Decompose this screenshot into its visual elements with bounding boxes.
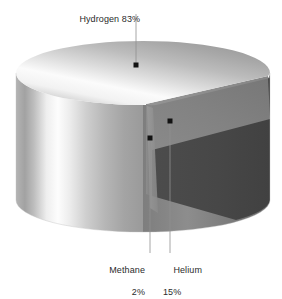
label-hydrogen: Hydrogen 83% bbox=[69, 3, 140, 36]
marker-methane bbox=[148, 136, 153, 141]
label-methane-name: Methane bbox=[109, 265, 145, 275]
label-helium-value: 15% bbox=[163, 287, 223, 298]
marker-hydrogen bbox=[134, 63, 139, 68]
cylinder-body bbox=[16, 41, 270, 232]
marker-helium bbox=[168, 119, 173, 124]
label-helium-name: Helium bbox=[173, 265, 202, 275]
label-methane: Methane 2% bbox=[88, 254, 145, 299]
label-methane-value: 2% bbox=[88, 287, 145, 298]
label-hydrogen-text: Hydrogen 83% bbox=[79, 14, 140, 24]
label-helium: Helium 15% bbox=[163, 254, 223, 299]
